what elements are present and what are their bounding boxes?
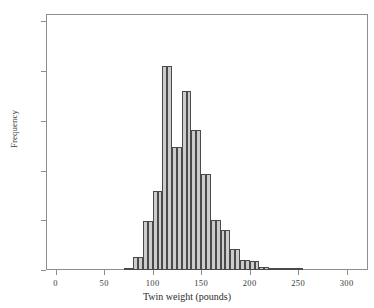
plot-area: [46, 14, 368, 270]
y-axis-tick-mark: [41, 220, 46, 221]
y-axis-tick-mark: [41, 270, 46, 271]
y-axis-tick-mark: [41, 171, 46, 172]
y-axis-tick-mark: [41, 21, 46, 22]
x-axis-label: Twin weight (pounds): [0, 291, 374, 302]
x-axis-tick-mark: [56, 270, 57, 275]
x-axis-tick-label: 100: [133, 278, 173, 288]
y-axis-tick-mark: [41, 121, 46, 122]
x-axis-tick-mark: [153, 270, 154, 275]
x-axis-tick-label: 250: [278, 278, 318, 288]
y-axis-label: Frequency: [9, 89, 19, 169]
x-axis-tick-mark: [250, 270, 251, 275]
x-axis-tick-label: 300: [327, 278, 367, 288]
x-axis-tick-label: 150: [181, 278, 221, 288]
histogram-figure: 0100200300400500 050100150200250300 Freq…: [0, 0, 374, 308]
x-axis-tick-mark: [104, 270, 105, 275]
x-axis-tick-mark: [201, 270, 202, 275]
x-axis-tick-mark: [347, 270, 348, 275]
x-axis-tick-label: 200: [230, 278, 270, 288]
y-axis-tick-mark: [41, 71, 46, 72]
x-axis-tick-label: 50: [84, 278, 124, 288]
x-axis-tick-mark: [298, 270, 299, 275]
x-axis-tick-label: 0: [36, 278, 76, 288]
